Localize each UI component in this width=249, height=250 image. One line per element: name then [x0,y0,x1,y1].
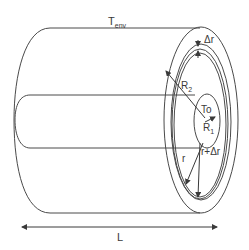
r-plus-dr-label: r+Δr [201,146,221,157]
outer-ellipse [164,27,238,213]
cylinder-diagram: Tenv Δr R2 To R1 r r+Δr L [0,0,249,250]
length-label: L [117,231,123,243]
r-plus-dr-arrow [198,143,200,197]
r1-label: R1 [203,122,214,135]
t-env-label: Tenv [108,15,127,29]
delta-r-label: Δr [204,34,215,45]
r-label: r [182,153,186,164]
shell-ellipse-2 [174,53,226,197]
to-label: To [201,104,212,115]
